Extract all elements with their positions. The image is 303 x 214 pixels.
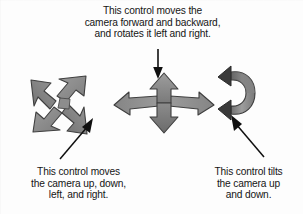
- pan-arrow-up-left: [31, 80, 56, 109]
- forward-backward-rotate-widget[interactable]: [112, 72, 216, 134]
- move-arrow-right: [169, 92, 214, 115]
- caption-bottom-right: This control tilts the camera up and dow…: [197, 166, 300, 201]
- figure-canvas: This control moves the camera forward an…: [0, 0, 303, 214]
- caption-bottom-left-line-3: left, and right.: [6, 189, 151, 201]
- tilt-band-top-face: [231, 72, 255, 93]
- tilt-arrowhead-top: [218, 66, 231, 86]
- caption-top-line-1: This control moves the: [60, 5, 245, 17]
- caption-bottom-right-line-1: This control tilts: [197, 166, 300, 178]
- caption-bottom-right-line-3: and down.: [197, 189, 300, 201]
- caption-top-line-2: camera forward and backward,: [60, 17, 245, 29]
- caption-top: This control moves the camera forward an…: [60, 5, 245, 40]
- caption-bottom-left-line-1: This control moves: [6, 166, 151, 178]
- caption-bottom-left: This control moves the camera up, down, …: [6, 166, 151, 201]
- move-arrow-down: [150, 103, 178, 133]
- caption-bottom-left-line-2: the camera up, down,: [6, 178, 151, 190]
- pan-hub: [58, 98, 70, 109]
- caption-top-line-3: and rotates it left and right.: [60, 28, 245, 40]
- move-arrow-left: [114, 92, 159, 115]
- caption-bottom-right-line-2: the camera up: [197, 178, 300, 190]
- pointer-arrow-up-right-icon: [56, 116, 102, 160]
- pointer-arrow-up-left-icon: [222, 112, 268, 158]
